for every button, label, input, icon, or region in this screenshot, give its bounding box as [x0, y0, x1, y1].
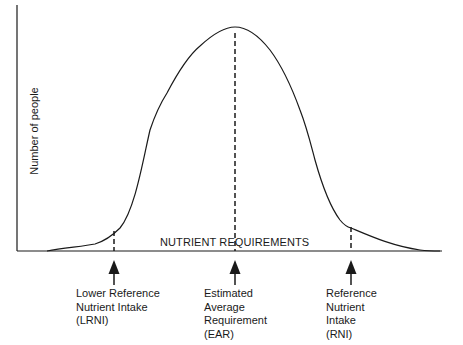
- rni-line-1: Reference: [326, 287, 377, 301]
- lrni-line-1: Lower Reference: [76, 287, 160, 301]
- rni-line-4: (RNI): [326, 328, 377, 342]
- ear-arrow-icon: [230, 260, 241, 285]
- lrni-annotation: Lower Reference Nutrient Intake (LRNI): [76, 287, 160, 328]
- lrni-line-2: Nutrient Intake: [76, 301, 160, 315]
- x-axis-label: NUTRIENT REQUIREMENTS: [160, 236, 309, 248]
- ear-line-3: Requirement: [204, 314, 267, 328]
- ear-annotation: Estimated Average Requirement (EAR): [204, 287, 267, 341]
- ear-line-2: Average: [204, 301, 267, 315]
- y-axis-label: Number of people: [28, 87, 40, 174]
- ear-line-1: Estimated: [204, 287, 267, 301]
- lrni-line-3: (LRNI): [76, 314, 160, 328]
- lrni-arrow-icon: [109, 260, 120, 285]
- ear-line-4: (EAR): [204, 328, 267, 342]
- rni-annotation: Reference Nutrient Intake (RNI): [326, 287, 377, 341]
- rni-line-2: Nutrient: [326, 301, 377, 315]
- rni-arrow-icon: [346, 260, 357, 285]
- rni-line-3: Intake: [326, 314, 377, 328]
- distribution-curve: [47, 27, 440, 251]
